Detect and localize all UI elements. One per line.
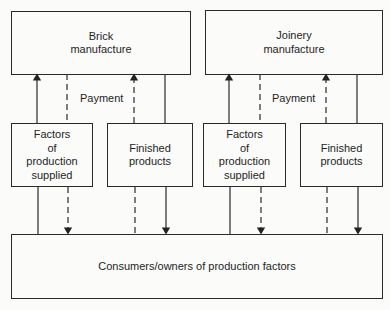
joinery-label-line2: manufacture <box>263 43 324 57</box>
finished-products-box-1: Finished products <box>107 123 193 187</box>
consumers-owners-label: Consumers/owners of production factors <box>98 260 295 274</box>
brick-label-line1: Brick <box>70 30 131 44</box>
factors1-line2: of <box>26 142 77 156</box>
joinery-manufacture-box: Joinerymanufacture <box>205 10 383 75</box>
brick-manufacture-box: Brickmanufacture <box>11 11 191 75</box>
finished1-line2: products <box>129 155 171 169</box>
finished-products-box-2: Finished products <box>300 123 383 187</box>
payment-label-left: Payment <box>80 92 123 104</box>
factors1-line4: supplied <box>26 169 77 183</box>
joinery-label-line1: Joinery <box>263 29 324 43</box>
factors2-line4: supplied <box>219 169 270 183</box>
factors2-line1: Factors <box>219 128 270 142</box>
payment-label-right: Payment <box>272 92 315 104</box>
brick-label-line2: manufacture <box>70 43 131 57</box>
finished2-line1: Finished <box>320 142 362 156</box>
factors-supplied-box-2: Factors of production supplied <box>203 123 286 187</box>
factors2-line3: production <box>219 155 270 169</box>
factors-supplied-box-1: Factors of production supplied <box>11 123 93 187</box>
factors1-line1: Factors <box>26 128 77 142</box>
consumers-owners-box: Consumers/owners of production factors <box>11 234 383 299</box>
finished1-line1: Finished <box>129 142 171 156</box>
factors2-line2: of <box>219 142 270 156</box>
finished2-line2: products <box>320 155 362 169</box>
factors1-line3: production <box>26 155 77 169</box>
